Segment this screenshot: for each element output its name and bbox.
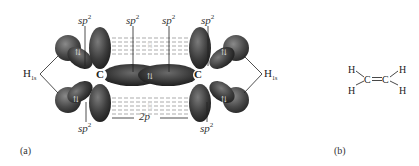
- sp2-label-top-4: sp2: [201, 13, 214, 26]
- svg-text:⇅: ⇅: [147, 72, 154, 81]
- c-atom-right: C: [382, 74, 389, 85]
- p-orbital-bottom-right: [189, 84, 211, 122]
- svg-text:⇅: ⇅: [75, 48, 82, 57]
- p-orbital-bottom-left: [89, 84, 111, 122]
- svg-text:⇅: ⇅: [221, 95, 228, 104]
- svg-text:⇅: ⇅: [147, 41, 154, 50]
- 2p-label: 2p: [139, 110, 150, 122]
- h-atom-bottom-right: H: [399, 85, 406, 96]
- panel-a-label: (a): [20, 145, 31, 156]
- h-atom-top-right: H: [399, 64, 406, 75]
- h-atom-bottom-left: H: [348, 85, 355, 96]
- svg-text:⇅: ⇅: [73, 95, 80, 104]
- sp2-label-top-1: sp2: [78, 13, 91, 26]
- sp2-label-bottom-1: sp2: [78, 121, 91, 134]
- sp2-label-top-3: sp2: [162, 13, 175, 26]
- h1s-label-left: H1s: [23, 67, 36, 81]
- svg-text:⇅: ⇅: [221, 48, 228, 57]
- h-atom-top-left: H: [348, 64, 355, 75]
- h1s-label-right: H1s: [264, 67, 277, 81]
- p-orbital-top-left: [89, 27, 111, 69]
- carbon-left-label: C: [96, 68, 104, 80]
- panel-b-label: (b): [334, 145, 346, 156]
- c-atom-left: C: [364, 74, 371, 85]
- carbon-right-label: C: [194, 68, 202, 80]
- sp2-label-bottom-2: sp2: [200, 121, 213, 134]
- sp2-label-top-2: sp2: [126, 13, 139, 26]
